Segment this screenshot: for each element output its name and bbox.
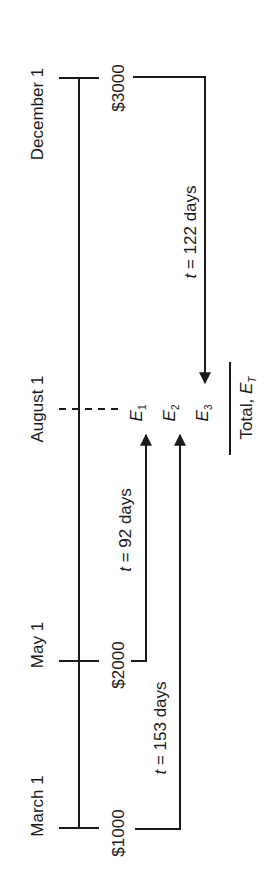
date-label-august-1: August 1 — [29, 375, 46, 442]
date-label-march-1: March 1 — [29, 775, 46, 836]
total-text: Total, — [237, 394, 256, 439]
interval-text: = 122 days — [181, 185, 200, 273]
e-subscript: 3 — [203, 405, 214, 411]
equivalent-e3: E3 — [194, 405, 214, 422]
e-variable: E — [127, 410, 146, 421]
e-subscript: T — [247, 377, 258, 383]
equivalent-e2: E2 — [161, 405, 181, 422]
e-variable: E — [160, 410, 179, 421]
e-subscript: 2 — [170, 405, 181, 411]
interval-text: = 92 days — [116, 488, 135, 567]
date-label-may-1: May 1 — [29, 622, 46, 668]
payment-3000: $3000 — [110, 64, 127, 111]
e-subscript: 1 — [137, 405, 148, 411]
t-variable: t — [181, 274, 200, 279]
interval-153-days: t = 153 days — [152, 681, 169, 774]
interval-92-days: t = 92 days — [117, 488, 134, 572]
t-variable: t — [151, 770, 170, 775]
payment-2000: $2000 — [110, 641, 127, 688]
e-variable: E — [237, 383, 256, 394]
date-label-december-1: December 1 — [29, 68, 46, 161]
interval-text: = 153 days — [151, 681, 170, 769]
total-equivalent-label: Total, ET — [238, 377, 258, 440]
payment-1000: $1000 — [110, 809, 127, 856]
t-variable: t — [116, 567, 135, 572]
e-variable: E — [193, 410, 212, 421]
interval-122-days: t = 122 days — [182, 185, 199, 278]
equivalent-e1: E1 — [128, 405, 148, 422]
